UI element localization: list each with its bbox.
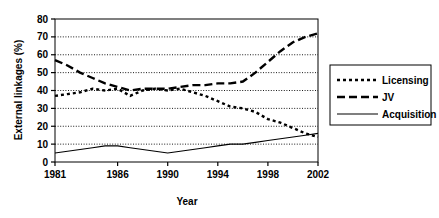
y-axis-title: External linkages (%): [13, 40, 24, 141]
y-tick-label-80: 80: [37, 14, 49, 25]
y-tick-label-50: 50: [37, 67, 49, 78]
y-axis-tick-labels: 01020304050607080: [37, 14, 49, 168]
y-tick-label-10: 10: [37, 139, 49, 150]
legend-label-acquisition: Acquisition: [382, 109, 436, 120]
y-tick-label-70: 70: [37, 31, 49, 42]
y-tick-label-30: 30: [37, 103, 49, 114]
x-tick-label-1994: 1994: [207, 169, 230, 180]
chart-legend: LicensingJVAcquisition: [330, 65, 436, 125]
x-tick-label-1986: 1986: [106, 169, 129, 180]
legend-label-jv: JV: [382, 92, 395, 103]
y-tick-label-20: 20: [37, 121, 49, 132]
y-tick-label-0: 0: [42, 157, 48, 168]
x-tick-label-1998: 1998: [257, 169, 280, 180]
legend-label-licensing: Licensing: [382, 75, 429, 86]
x-axis-title: Year: [176, 196, 197, 207]
chart-figure: 01020304050607080 1981198619901994199820…: [0, 0, 439, 218]
y-tick-label-40: 40: [37, 85, 49, 96]
x-tick-label-1990: 1990: [157, 169, 180, 180]
x-tick-label-2002: 2002: [307, 169, 330, 180]
line-chart: 01020304050607080 1981198619901994199820…: [0, 0, 439, 218]
y-tick-label-60: 60: [37, 49, 49, 60]
x-tick-label-1981: 1981: [44, 169, 67, 180]
